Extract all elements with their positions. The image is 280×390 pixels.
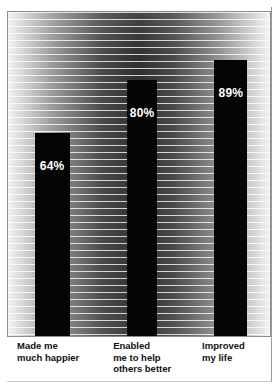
bar-made-me-much-happier: 64%	[35, 133, 70, 336]
bar-value-label: 89%	[214, 86, 247, 100]
plot-area: 64% 80% 89%	[7, 11, 271, 337]
category-label-made-me-much-happier: Made me much happier	[17, 340, 79, 363]
category-axis-labels: Made me much happier Enabled me to help …	[7, 340, 271, 386]
bar-improved-my-life: 89%	[214, 60, 247, 336]
category-label-improved-my-life: Improved my life	[202, 340, 245, 363]
bar-value-label: 64%	[35, 159, 70, 173]
bar-chart-figure: 64% 80% 89% Made me much happier Enabled…	[0, 0, 280, 390]
bar-value-label: 80%	[127, 106, 157, 120]
bar-enabled-me-to-help-others-better: 80%	[127, 80, 157, 336]
category-label-enabled-me-to-help-others-better: Enabled me to help others better	[113, 340, 171, 375]
